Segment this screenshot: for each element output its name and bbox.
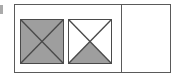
image-placeholder-icon <box>21 20 63 63</box>
empty-pane[interactable] <box>122 5 170 72</box>
tile-area <box>15 5 121 72</box>
image-placeholder-icon <box>69 20 111 63</box>
image-placeholder-tile-1[interactable] <box>20 19 64 64</box>
clipped-edge-glyph-icon <box>0 5 3 14</box>
screenshot-root <box>0 0 178 78</box>
image-placeholder-tile-2[interactable] <box>68 19 112 64</box>
placeholder-tiles-panel <box>14 4 171 73</box>
